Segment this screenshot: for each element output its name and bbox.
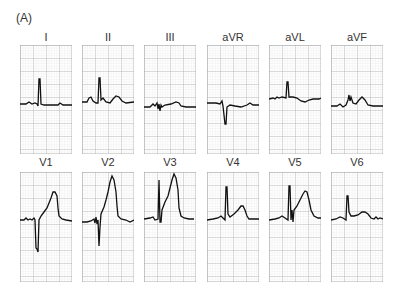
ecg-trace [82, 172, 134, 282]
lead-label: V4 [207, 156, 259, 168]
lead-label: V6 [331, 156, 383, 168]
ecg-trace [207, 45, 259, 154]
ecg-trace [207, 172, 259, 282]
ecg-grid-panel [331, 172, 383, 282]
ecg-grid-panel [207, 172, 259, 282]
ecg-trace [331, 172, 383, 282]
ecg-trace [144, 45, 196, 154]
ecg-trace [331, 45, 383, 154]
ecg-trace [20, 172, 72, 282]
ecg-grid-panel [144, 45, 196, 154]
ecg-grid-panel [144, 172, 196, 282]
ecg-grid-panel [269, 45, 321, 154]
figure-label: (A) [16, 11, 32, 25]
lead-label: aVF [331, 31, 383, 43]
lead-label: aVL [269, 31, 321, 43]
lead-label: II [82, 31, 134, 43]
lead-label: aVR [207, 31, 259, 43]
ecg-grid-panel [20, 45, 72, 154]
ecg-trace [82, 45, 134, 154]
ecg-trace [20, 45, 72, 154]
ecg-grid-panel [207, 45, 259, 154]
lead-label: V5 [269, 156, 321, 168]
lead-label: V2 [82, 156, 134, 168]
ecg-grid-panel [82, 172, 134, 282]
ecg-trace [144, 172, 196, 282]
lead-label: V3 [144, 156, 196, 168]
ecg-grid-panel [82, 45, 134, 154]
ecg-grid-panel [331, 45, 383, 154]
lead-label: I [20, 31, 72, 43]
lead-label: III [144, 31, 196, 43]
ecg-grid-panel [269, 172, 321, 282]
ecg-grid-panel [20, 172, 72, 282]
ecg-trace [269, 172, 321, 282]
ecg-trace [269, 45, 321, 154]
lead-label: V1 [20, 156, 72, 168]
